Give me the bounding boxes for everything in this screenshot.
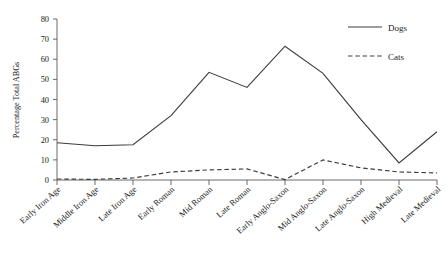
y-tick-label: 10 [41, 156, 49, 165]
y-tick-label: 30 [41, 116, 49, 125]
legend-label-dogs: Dogs [388, 23, 407, 33]
legend-label-cats: Cats [388, 52, 404, 62]
y-tick-label: 50 [41, 75, 49, 84]
y-tick-label: 20 [41, 136, 49, 145]
chart-background [0, 0, 448, 269]
y-tick-label: 60 [41, 55, 49, 64]
chart-figure: 01020304050607080 Percentage Total ABGs … [0, 0, 448, 269]
y-axis-label: Percentage Total ABGs [12, 62, 21, 139]
y-tick-label: 40 [41, 96, 49, 105]
y-tick-label: 0 [45, 176, 49, 185]
line-chart: 01020304050607080 Percentage Total ABGs … [0, 0, 448, 269]
y-tick-label: 70 [41, 35, 49, 44]
y-tick-label: 80 [41, 15, 49, 24]
